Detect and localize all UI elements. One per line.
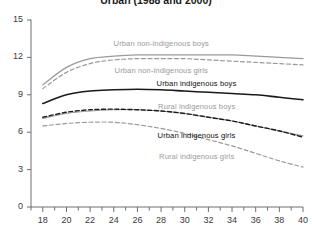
axis-layer [27,20,303,213]
series-label-4: Urban indigenous girls [158,131,236,140]
y-tick-label: 9 [1,89,23,99]
y-tick-label: 3 [1,164,23,174]
y-tick-label: 0 [1,201,23,211]
y-tick-label: 15 [1,14,23,24]
x-tick-label: 24 [104,215,124,225]
series-label-5: Rural indigenous girls [159,152,234,161]
series-label-2: Urban indigenous boys [157,79,237,88]
x-tick-label: 40 [293,215,312,225]
x-tick-label: 38 [269,215,289,225]
x-tick-label: 20 [56,215,76,225]
x-tick-label: 18 [33,215,53,225]
x-tick-label: 32 [198,215,218,225]
x-tick-label: 36 [246,215,266,225]
series-label-3: Rural indigenous boys [158,102,235,111]
x-tick-label: 30 [175,215,195,225]
chart-container: Urban (1988 and 2000) 03691215 182022242… [0,0,312,238]
series-label-1: Urban non-indigenous girls [115,66,208,75]
y-tick-label: 6 [1,126,23,136]
x-tick-label: 28 [151,215,171,225]
x-tick-label: 34 [222,215,242,225]
x-tick-label: 22 [80,215,100,225]
series-label-0: Urban non-indigenous boys [114,39,209,48]
x-tick-label: 26 [127,215,147,225]
line-chart-plot [0,0,312,238]
y-tick-label: 12 [1,51,23,61]
